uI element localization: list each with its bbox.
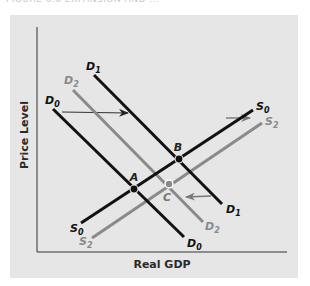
curve-d1 (94, 75, 222, 204)
label-s0-top: S0 (256, 100, 270, 115)
label-d1-bottom: D1 (226, 203, 241, 218)
point-a (130, 185, 138, 193)
point-a-label: A (129, 171, 139, 184)
arrow-demand-shift-back (186, 196, 211, 197)
x-axis-label: Real GDP (133, 258, 190, 271)
label-d1-top: D1 (86, 60, 101, 75)
label-s2-top: S2 (265, 115, 279, 130)
label-s2-bottom: S2 (79, 235, 93, 250)
label-d0-bottom: D0 (187, 237, 202, 252)
y-axis-label: Price Level (18, 101, 31, 169)
point-c-label: C (163, 191, 171, 204)
chart: Price Level Real GDP A B C D1 D2 D0 D1 D… (0, 0, 310, 286)
label-d2-top: D2 (64, 74, 79, 89)
point-b-label: B (174, 141, 182, 154)
curve-d0 (53, 109, 184, 237)
point-b (175, 155, 183, 163)
axes (37, 27, 287, 252)
label-d0-top: D0 (45, 94, 60, 109)
point-c (165, 180, 173, 188)
label-d2-bottom: D2 (205, 220, 220, 235)
